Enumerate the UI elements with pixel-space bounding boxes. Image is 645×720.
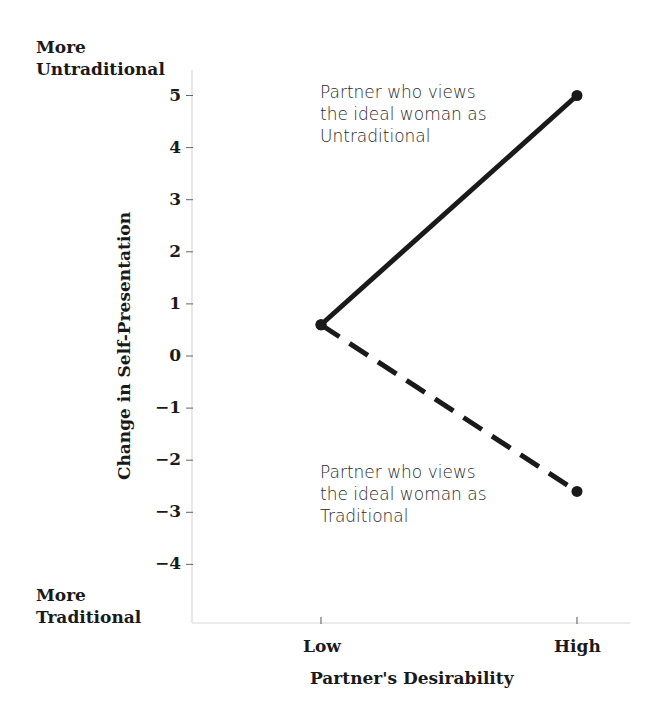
annotation-untraditional-line1: Partner who views <box>320 81 487 103</box>
annotation-untraditional: Partner who views the ideal woman as Unt… <box>320 81 487 147</box>
annotation-untraditional-line2: the ideal woman as <box>320 103 487 125</box>
annotation-traditional: Partner who views the ideal woman as Tra… <box>320 461 487 527</box>
annotation-traditional-line3: Traditional <box>320 505 487 527</box>
annotation-traditional-line1: Partner who views <box>320 461 487 483</box>
traditional-point-low <box>316 319 327 330</box>
annotation-traditional-line2: the ideal woman as <box>320 483 487 505</box>
x-category-low: Low <box>303 636 341 656</box>
annotation-untraditional-line3: Untraditional <box>320 125 487 147</box>
x-axis-title: Partner's Desirability <box>310 668 514 688</box>
traditional-point-high <box>572 486 583 497</box>
untraditional-point-high <box>572 90 583 101</box>
x-category-high: High <box>554 636 601 656</box>
